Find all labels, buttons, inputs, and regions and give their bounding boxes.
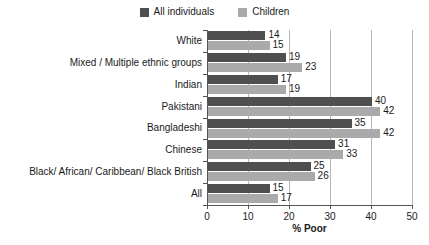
bar: [208, 107, 380, 116]
bar-chart: All individuals Children 01020304050 141…: [0, 0, 429, 245]
bar: [208, 63, 302, 72]
x-axis-line: [207, 205, 412, 206]
x-tick-40: [371, 205, 372, 209]
bar: [208, 119, 352, 128]
bar: [208, 184, 270, 193]
x-tick-20: [289, 205, 290, 209]
legend-entry-all-individuals: All individuals: [140, 7, 215, 17]
bar-group: 1719: [208, 75, 413, 95]
y-tick-5: [203, 139, 207, 140]
x-axis-title: % Poor: [207, 223, 412, 234]
x-tick-10: [248, 205, 249, 209]
bar: [208, 162, 311, 171]
x-tick-label-30: 30: [324, 211, 335, 222]
y-tick-2: [203, 74, 207, 75]
x-tick-50: [412, 205, 413, 209]
plot-area: 01020304050 1415192317194042354231332526…: [207, 30, 412, 205]
bar-value-label: 42: [383, 106, 394, 116]
legend-label-all-individuals: All individuals: [154, 7, 215, 17]
category-label: All: [191, 188, 202, 199]
bar-value-label: 23: [305, 62, 316, 72]
bar-value-label: 19: [289, 52, 300, 62]
y-tick-6: [203, 161, 207, 162]
bar: [208, 97, 372, 106]
x-tick-label-40: 40: [365, 211, 376, 222]
bar-value-label: 33: [346, 149, 357, 159]
bar-group: 1923: [208, 53, 413, 73]
category-label: Indian: [175, 79, 202, 90]
bar: [208, 194, 278, 203]
category-label: White: [176, 35, 202, 46]
x-tick-label-50: 50: [406, 211, 417, 222]
bar-value-label: 15: [273, 40, 284, 50]
bar-value-label: 42: [383, 128, 394, 138]
bar: [208, 150, 343, 159]
bar: [208, 53, 286, 62]
x-tick-label-20: 20: [283, 211, 294, 222]
x-tick-label-10: 10: [242, 211, 253, 222]
bar: [208, 140, 335, 149]
bar-value-label: 35: [355, 118, 366, 128]
bar: [208, 85, 286, 94]
bar-group: 4042: [208, 97, 413, 117]
bar-value-label: 17: [281, 193, 292, 203]
bar-group: 1517: [208, 184, 413, 204]
y-tick-3: [203, 96, 207, 97]
legend-label-children: Children: [252, 7, 289, 17]
bar: [208, 129, 380, 138]
x-tick-30: [330, 205, 331, 209]
y-tick-0: [203, 30, 207, 31]
category-label: Mixed / Multiple ethnic groups: [70, 57, 202, 68]
y-tick-4: [203, 118, 207, 119]
bar-group: 2526: [208, 162, 413, 182]
bar: [208, 31, 265, 40]
legend-swatch-all-individuals: [140, 8, 149, 17]
legend-swatch-children: [238, 8, 247, 17]
bar: [208, 41, 270, 50]
y-tick-1: [203, 52, 207, 53]
legend-entry-children: Children: [238, 7, 289, 17]
chart-legend: All individuals Children: [0, 7, 429, 17]
y-tick-7: [203, 183, 207, 184]
y-tick-end: [203, 205, 207, 206]
category-label: Black/ African/ Caribbean/ Black British: [29, 166, 202, 177]
bar-value-label: 26: [318, 171, 329, 181]
bar: [208, 75, 278, 84]
x-tick-label-0: 0: [204, 211, 210, 222]
category-label: Chinese: [165, 144, 202, 155]
bar-group: 3133: [208, 140, 413, 160]
x-tick-0: [207, 205, 208, 209]
bar-group: 3542: [208, 119, 413, 139]
bar: [208, 172, 315, 181]
category-label: Pakistani: [161, 101, 202, 112]
category-label: Bangladeshi: [147, 122, 202, 133]
bar-group: 1415: [208, 31, 413, 51]
bar-value-label: 19: [289, 84, 300, 94]
